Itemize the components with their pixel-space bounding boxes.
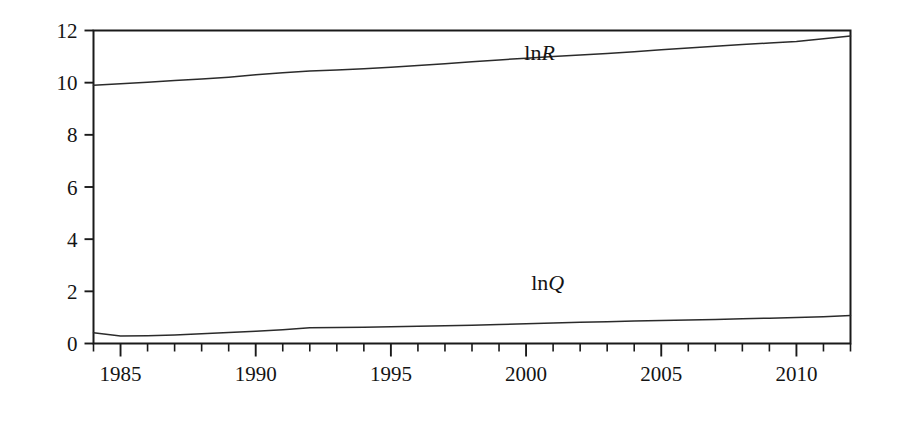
y-axis-tick-labels: 024681012 (57, 19, 79, 356)
x-tick-label: 2005 (640, 362, 682, 386)
y-tick-label: 0 (67, 332, 78, 356)
line-chart: 024681012 198519901995200020052010 lnRln… (0, 0, 897, 422)
x-tick-label: 1995 (370, 362, 412, 386)
y-tick-label: 6 (67, 176, 78, 200)
series-label-lnQ: lnQ (531, 270, 564, 295)
series-line-lnQ (94, 316, 851, 336)
x-axis-major-ticks (121, 344, 797, 357)
y-tick-label: 4 (67, 228, 78, 252)
x-axis-minor-ticks (94, 344, 851, 352)
chart-page: 024681012 198519901995200020052010 lnRln… (0, 0, 897, 422)
x-tick-label: 1990 (235, 362, 277, 386)
y-tick-label: 12 (57, 19, 78, 43)
plot-frame-border (94, 31, 851, 344)
y-tick-label: 2 (67, 280, 78, 304)
y-axis-ticks (85, 31, 94, 344)
series-line-lnR (94, 36, 851, 85)
y-tick-label: 8 (67, 123, 78, 147)
plot-frame (94, 31, 851, 344)
x-tick-label: 2010 (775, 362, 817, 386)
series-inline-labels: lnRlnQ (524, 40, 564, 295)
y-tick-label: 10 (57, 71, 78, 95)
series-label-lnR: lnR (524, 40, 555, 65)
data-series (94, 36, 851, 336)
x-tick-label: 1985 (100, 362, 142, 386)
x-axis-tick-labels: 198519901995200020052010 (100, 362, 818, 386)
figure: 024681012 198519901995200020052010 lnRln… (0, 0, 897, 422)
x-tick-label: 2000 (505, 362, 547, 386)
